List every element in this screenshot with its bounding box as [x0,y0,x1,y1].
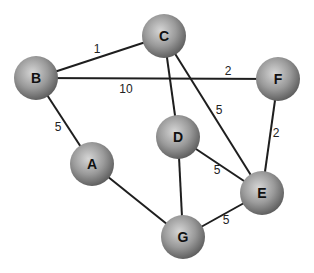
edge-b-f [36,78,278,79]
edge-weight-label: 5 [55,120,62,134]
node-label: B [31,70,41,86]
edge-weight-label: 5 [214,163,221,177]
node-label: E [257,185,266,201]
node-g: G [161,215,205,259]
graph-canvas: 110255255 BCFDAEG [0,0,314,273]
edge-weight-label: 1 [94,42,101,56]
node-f: F [256,57,300,101]
node-label: D [173,129,183,145]
edge-weight-label: 10 [119,82,133,96]
edge-weight-label: 5 [216,103,223,117]
nodes-layer: BCFDAEG [14,14,300,259]
node-label: C [159,28,169,44]
edge-weight-label: 2 [225,64,232,78]
node-e: E [240,171,284,215]
node-label: G [178,229,189,245]
node-label: A [87,156,97,172]
node-a: A [70,142,114,186]
node-c: C [142,14,186,58]
node-b: B [14,56,58,100]
node-label: F [274,71,283,87]
edge-weight-label: 2 [273,126,280,140]
edge-weight-label: 5 [223,213,230,227]
node-d: D [156,115,200,159]
